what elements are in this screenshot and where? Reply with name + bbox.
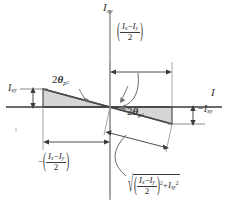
angle-2theta-p1-label: 2θp1 [127,106,144,118]
bottom-dim-denominator: 2 [46,163,66,172]
bottom-left-dimension-label: −( Ix−Iy 2 ) [38,152,69,172]
radius-expression-label: √ ( Ix−Iy 2 )2+Ixy2 [128,174,180,196]
arrow-right-bottom-dim [104,139,110,144]
radius-ext-origin [104,107,110,135]
radical-icon: √ [128,173,133,196]
arrow-end-radius [163,145,169,150]
top-dim-denominator: 2 [120,33,140,42]
top-dimension-label: ( Ix−Iy 2 ) [117,22,143,42]
arrow-right-top-dim [166,69,172,74]
mohrs-circle-figure: Ixy I Ixy −Ixy 2θp2 2θp1 ( Ix−Iy 2 ) −( … [0,0,236,210]
arrow-left-bottom-dim [43,139,49,144]
radius-denominator: 2 [137,187,157,196]
arrow-down-ixy [30,103,35,109]
vertical-axis-label: Ixy [103,2,113,14]
arrow-up-ixy [30,87,35,93]
arrow-down-neg-ixy [190,120,195,126]
horizontal-axis-label: I [211,87,215,98]
neg-ixy-right-label: −Ixy [198,104,212,115]
ixy-left-label: Ixy [8,83,17,94]
arrow-up-neg-ixy [190,105,195,111]
angle-arc-2theta-p1 [122,73,138,107]
angle-2theta-p2-label: 2θp2 [52,74,69,86]
arrow-start-radius [106,130,112,135]
leader-curve-radius-expression [115,135,126,176]
arrow-left-top-dim [110,69,116,74]
